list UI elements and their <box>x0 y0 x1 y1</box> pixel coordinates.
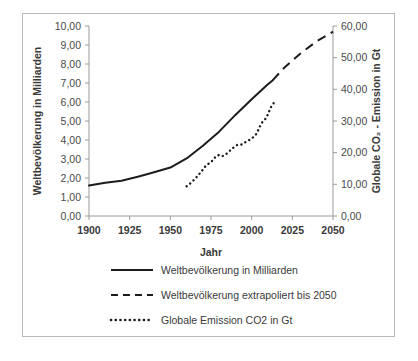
y-tick-label-right: 0,00 <box>341 210 362 222</box>
y-tick-label-left: 6,00 <box>61 96 82 108</box>
x-axis-title: Jahr <box>200 246 222 258</box>
x-axis-ticks: 1900192519501975200020252050 <box>77 216 345 236</box>
series-dotted <box>187 102 275 186</box>
chart-series-group <box>89 32 333 187</box>
y-tick-label-left: 1,00 <box>61 191 82 203</box>
y-tick-label-left: 7,00 <box>61 77 82 89</box>
y-tick-label-left: 5,00 <box>61 115 82 127</box>
y-tick-label-left: 9,00 <box>61 39 82 51</box>
y-axis-left-ticks: 0,001,002,003,004,005,006,007,008,009,00… <box>55 20 89 222</box>
chart-legend: Weltbevölkerung in MilliardenWeltbevölke… <box>111 264 337 326</box>
legend-label: Weltbevölkerung extrapoliert bis 2050 <box>161 289 337 301</box>
y-tick-label-left: 3,00 <box>61 153 82 165</box>
x-tick-label: 1950 <box>159 224 183 236</box>
chart-plot-area: 0,001,002,003,004,005,006,007,008,009,00… <box>55 20 368 236</box>
y-axis-left-title: Weltbevölkerung in Milliarden <box>31 47 43 196</box>
x-tick-label: 2025 <box>281 224 305 236</box>
y-tick-label-right: 30,00 <box>341 115 367 127</box>
y-tick-label-left: 8,00 <box>61 58 82 70</box>
y-axis-right-ticks: 0,0010,0020,0030,0040,0050,0060,00 <box>333 20 367 222</box>
y-tick-label-left: 10,00 <box>55 20 81 32</box>
x-tick-label: 1975 <box>199 224 223 236</box>
y-tick-label-right: 20,00 <box>341 146 367 158</box>
y-tick-label-left: 4,00 <box>61 134 82 146</box>
y-tick-label-right: 40,00 <box>341 83 367 95</box>
chart-canvas: 0,001,002,003,004,005,006,007,008,009,00… <box>23 14 396 336</box>
y-tick-label-right: 50,00 <box>341 51 367 63</box>
x-tick-label: 2050 <box>321 224 345 236</box>
y-tick-label-left: 0,00 <box>61 210 82 222</box>
x-tick-label: 1925 <box>118 224 142 236</box>
x-tick-label: 1900 <box>77 224 101 236</box>
series-dashed <box>273 32 333 80</box>
chart-figure-frame: 0,001,002,003,004,005,006,007,008,009,00… <box>22 13 395 337</box>
series-solid <box>89 80 273 185</box>
y-axis-right-title: Globale CO₂ - Emission in Gt <box>370 48 382 193</box>
legend-label: Weltbevölkerung in Milliarden <box>161 264 298 276</box>
y-tick-label-right: 10,00 <box>341 178 367 190</box>
x-tick-label: 2000 <box>240 224 264 236</box>
legend-label: Globale Emission CO2 in Gt <box>161 314 292 326</box>
y-tick-label-right: 60,00 <box>341 20 367 32</box>
y-tick-label-left: 2,00 <box>61 172 82 184</box>
